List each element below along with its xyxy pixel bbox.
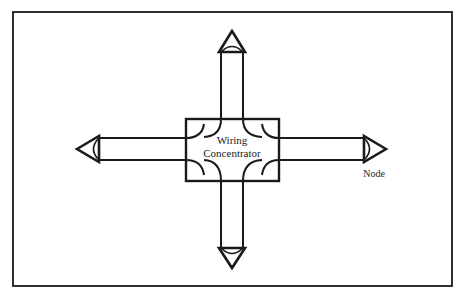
branch-right	[262, 124, 363, 175]
node-left-icon	[77, 136, 99, 162]
branch-left	[99, 124, 204, 175]
star-topology-diagram: Wiring Concentrator Node	[0, 0, 460, 296]
node-bottom-icon	[219, 248, 245, 268]
concentrator-label-line1: Wiring	[217, 134, 248, 146]
concentrator-label-line2: Concentrator	[203, 147, 261, 159]
node-label-right: Node	[363, 168, 385, 179]
node-top-icon	[219, 31, 245, 52]
node-right-icon	[364, 136, 386, 162]
branch-bottom	[204, 160, 262, 248]
branch-top	[204, 52, 262, 137]
